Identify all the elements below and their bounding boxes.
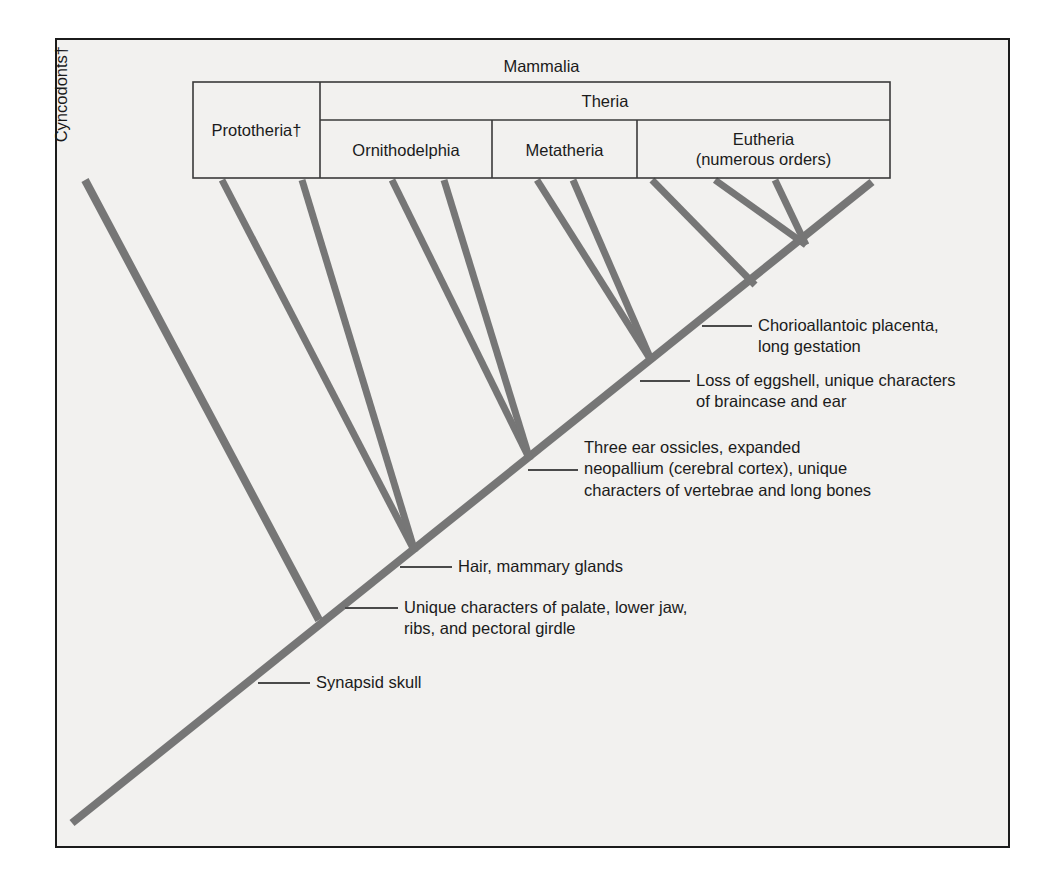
cladogram-tree: [0, 0, 1054, 880]
character-label-chorioallantoic-placenta: Chorioallantoic placenta, long gestation: [758, 315, 939, 358]
branch-metatheria-1: [537, 180, 652, 362]
branch-ornithodelphia-2: [444, 180, 530, 460]
branch-cyncodonts: [85, 180, 319, 620]
taxon-label-mammalia: Mammalia: [193, 56, 890, 76]
taxon-label-theria: Theria: [320, 91, 890, 111]
taxon-label-cyncodonts: Cyncodonts†: [52, 46, 71, 142]
figure-canvas: Cyncodonts† Mammalia Prototheria† Theria…: [0, 0, 1054, 880]
character-label-hair-mammary-glands: Hair, mammary glands: [458, 556, 623, 577]
character-label-three-ear-ossicles: Three ear ossicles, expanded neopallium …: [584, 437, 871, 501]
taxon-label-eutheria: Eutheria (numerous orders): [637, 129, 890, 169]
taxon-label-ornithodelphia: Ornithodelphia: [320, 140, 492, 160]
taxon-label-metatheria: Metatheria: [492, 140, 637, 160]
character-label-synapsid-skull: Synapsid skull: [316, 672, 421, 693]
character-label-loss-of-eggshell: Loss of eggshell, unique characters of b…: [696, 370, 956, 413]
taxon-label-prototheria: Prototheria†: [193, 120, 320, 140]
branch-metatheria-2: [573, 180, 652, 362]
character-label-unique-characters-palate: Unique characters of palate, lower jaw, …: [404, 597, 687, 640]
branch-ornithodelphia-1: [392, 180, 530, 460]
